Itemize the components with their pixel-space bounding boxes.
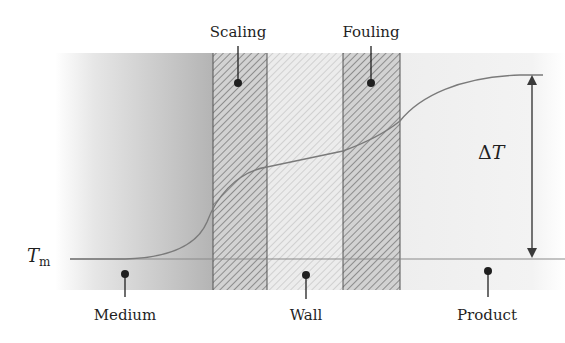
wall-label: Wall <box>290 306 323 324</box>
scaling-label: Scaling <box>210 23 267 41</box>
wall-region <box>267 53 343 290</box>
medium-label: Medium <box>94 306 157 324</box>
medium-region <box>55 53 213 290</box>
fouling-label: Fouling <box>342 23 400 41</box>
product-label: Product <box>457 306 517 324</box>
delta-symbol: Δ <box>478 141 492 163</box>
heat-transfer-temperature-profile-diagram: Scaling Fouling Medium Wall Product Tm Δ… <box>0 0 565 343</box>
fouling-band <box>343 53 400 290</box>
scaling-band <box>213 53 267 290</box>
tm-label-subscript: m <box>39 255 51 269</box>
delta-t-var: T <box>492 141 506 163</box>
tm-label: Tm <box>27 245 51 269</box>
delta-t-label: ΔT <box>478 141 506 163</box>
product-region <box>400 53 565 290</box>
